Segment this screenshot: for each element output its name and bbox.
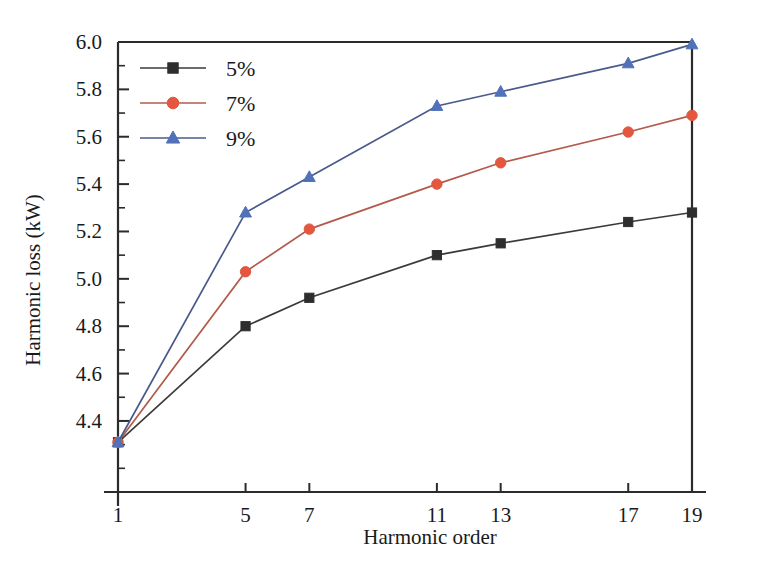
y-tick-label: 6.0 (76, 30, 102, 54)
x-tick-label: 13 (490, 503, 511, 527)
data-point (303, 171, 315, 182)
y-tick-label: 5.8 (76, 77, 102, 101)
data-point (624, 217, 633, 226)
x-tick-label: 17 (618, 503, 639, 527)
legend-item-9pct: 9% (140, 126, 255, 151)
y-tick-label: 4.8 (76, 314, 102, 338)
y-tick-label: 5.0 (76, 267, 102, 291)
y-tick-label: 5.6 (76, 125, 102, 149)
data-point (687, 208, 696, 217)
x-axis-ticks: 15711131719 (113, 483, 703, 527)
data-point (305, 293, 314, 302)
y-tick-label: 5.4 (76, 172, 103, 196)
legend-label: 7% (226, 91, 255, 116)
y-tick-label: 4.6 (76, 362, 102, 386)
chart-canvas: 4.44.64.85.05.25.45.65.86.0 15711131719 … (0, 0, 765, 578)
legend-item-5pct: 5% (140, 56, 255, 81)
legend-marker-sample (167, 97, 179, 109)
y-axis-ticks: 4.44.64.85.05.25.45.65.86.0 (76, 30, 129, 492)
axis-frame (104, 42, 706, 506)
data-point (241, 322, 250, 331)
data-point (432, 251, 441, 260)
data-point (240, 267, 250, 277)
data-point (687, 110, 697, 120)
data-point (432, 179, 442, 189)
x-tick-label: 5 (240, 503, 251, 527)
data-point (496, 239, 505, 248)
legend-label: 9% (226, 126, 255, 151)
legend-label: 5% (226, 56, 255, 81)
series-9pct (112, 38, 698, 447)
x-tick-label: 1 (113, 503, 124, 527)
series-5pct (113, 208, 696, 447)
y-tick-label: 4.4 (76, 409, 103, 433)
legend-marker-sample (166, 131, 179, 143)
x-tick-label: 11 (427, 503, 447, 527)
x-tick-label: 7 (304, 503, 315, 527)
data-point (686, 38, 698, 49)
chart-figure: 4.44.64.85.05.25.45.65.86.0 15711131719 … (0, 0, 765, 578)
x-axis-title: Harmonic order (363, 525, 497, 549)
y-axis-title: Harmonic loss (kW) (21, 194, 45, 365)
legend-marker-sample (168, 63, 178, 73)
y-tick-label: 5.2 (76, 219, 102, 243)
data-point (240, 206, 252, 217)
x-tick-label: 19 (682, 503, 703, 527)
chart-legend: 5%7%9% (140, 56, 255, 151)
data-point (623, 127, 633, 137)
data-series-group (112, 38, 698, 447)
legend-item-7pct: 7% (140, 91, 255, 116)
series-7pct (113, 110, 697, 447)
data-point (304, 224, 314, 234)
data-point (495, 158, 505, 168)
